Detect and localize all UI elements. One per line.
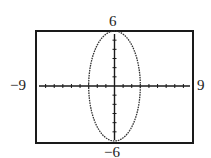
axes [39, 34, 190, 140]
graph-window [0, 0, 211, 158]
ymax-label: 6 [109, 14, 117, 29]
xmax-label: 9 [197, 78, 205, 93]
xmin-label: −9 [10, 78, 26, 93]
ymin-label: −6 [104, 145, 120, 158]
